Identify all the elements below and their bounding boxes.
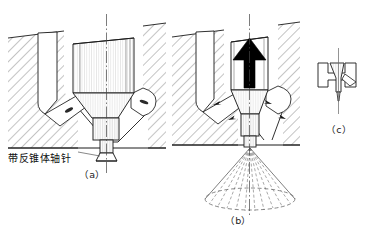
needle-mid-cylinder-b	[241, 114, 259, 136]
caption-b: （b）	[225, 213, 252, 227]
needle-cone-a	[73, 93, 134, 118]
fuel-gallery-left-b	[196, 31, 214, 112]
pintle-leader-line	[78, 152, 100, 156]
caption-c: （c）	[326, 122, 352, 136]
subfigure-c	[318, 48, 356, 114]
pintle-shank-b	[244, 136, 256, 147]
needle-upper-body-a	[73, 38, 134, 93]
caption-a: （a）	[79, 167, 105, 181]
nozzle-holder-right-a	[143, 23, 166, 148]
subfigure-b	[172, 14, 300, 215]
needle-mid-cylinder-a	[93, 118, 119, 140]
spray-cone-outline-b	[205, 148, 295, 210]
fuel-gallery-left-a	[38, 32, 57, 114]
nozzle-holder-right-b	[278, 22, 300, 145]
nozzle-diagram-svg	[0, 0, 375, 238]
figure-root: 带反锥体轴针 （a） （b） （c）	[0, 0, 375, 238]
pintle-annotation-label: 带反锥体轴针	[8, 150, 71, 165]
